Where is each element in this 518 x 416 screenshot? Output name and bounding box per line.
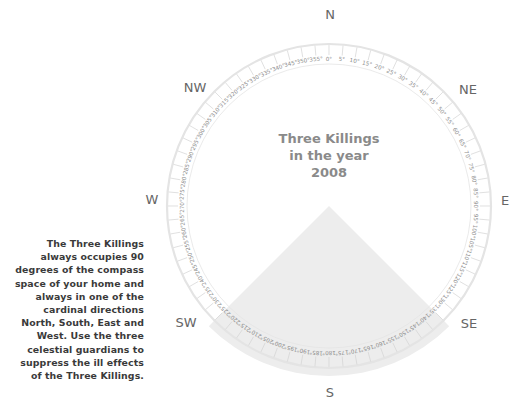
title-line-3: 2008	[249, 164, 409, 181]
direction-label-e: E	[501, 193, 509, 208]
three-killings-wedge	[214, 206, 443, 368]
direction-label-w: W	[146, 192, 159, 207]
svg-text:175°: 175°	[335, 349, 349, 356]
direction-label-n: N	[325, 7, 335, 22]
svg-text:95°: 95°	[472, 214, 479, 225]
svg-text:10°: 10°	[349, 57, 360, 65]
svg-text:15°: 15°	[362, 59, 373, 67]
svg-text:0°: 0°	[326, 56, 333, 62]
svg-text:355°: 355°	[309, 55, 323, 62]
title-line-1: Three Killings	[249, 130, 409, 147]
svg-text:20°: 20°	[374, 63, 386, 72]
svg-text:180°: 180°	[322, 350, 336, 356]
svg-text:80°: 80°	[470, 175, 478, 186]
direction-label-se: SE	[461, 316, 477, 331]
svg-text:5°: 5°	[338, 56, 345, 63]
svg-text:70°: 70°	[463, 150, 472, 162]
svg-text:265°: 265°	[178, 212, 185, 226]
svg-text:90°: 90°	[473, 201, 479, 211]
svg-text:75°: 75°	[467, 162, 475, 173]
svg-text:65°: 65°	[458, 138, 468, 150]
direction-label-ne: NE	[459, 82, 477, 97]
svg-text:85°: 85°	[472, 188, 479, 199]
chart-title: Three Killings in the year 2008	[249, 130, 409, 181]
description-text: The Three Killings always occupies 90 de…	[8, 237, 144, 382]
direction-label-nw: NW	[184, 80, 207, 95]
direction-label-s: S	[326, 385, 334, 400]
svg-text:270°: 270°	[179, 199, 185, 213]
svg-text:25°: 25°	[386, 68, 398, 78]
direction-label-sw: SW	[175, 315, 196, 330]
title-line-2: in the year	[249, 147, 409, 164]
